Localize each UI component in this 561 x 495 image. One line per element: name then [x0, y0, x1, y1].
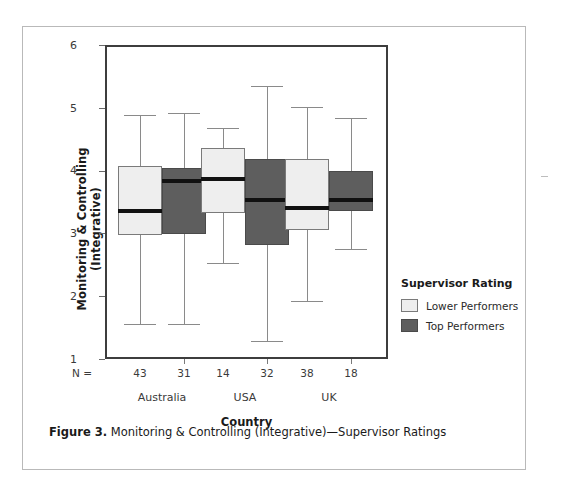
n-value-usa-top: 32 [245, 367, 289, 379]
whisker-upper-cap [335, 118, 367, 119]
y-tick-label-4: 4 [63, 165, 77, 176]
y-tick-mark-5 [99, 108, 105, 109]
n-value-uk-lower: 38 [285, 367, 329, 379]
whisker-upper-line [140, 115, 141, 166]
y-tick-mark-1 [99, 359, 105, 360]
x-category-uk: UK [285, 391, 373, 404]
y-tick-mark-3 [99, 233, 105, 234]
whisker-lower-line [140, 235, 141, 324]
legend-item-lower-performers[interactable]: Lower Performers [401, 299, 541, 312]
whisker-upper-line [351, 118, 352, 178]
whisker-lower-cap [335, 249, 367, 250]
whisker-upper-cap [251, 86, 283, 87]
legend-label-lower-performers: Lower Performers [426, 300, 518, 312]
y-axis-title: Monitoring & Controlling (Integrative) [75, 119, 103, 339]
median-line [118, 209, 162, 213]
x-category-australia: Australia [118, 391, 206, 404]
legend-item-top-performers[interactable]: Top Performers [401, 319, 541, 332]
figure-caption-text: Monitoring & Controlling (Integrative)—S… [107, 425, 446, 439]
median-line [162, 179, 206, 183]
whisker-lower-line [267, 245, 268, 341]
x-category-usa: USA [201, 391, 289, 404]
n-value-uk-top: 18 [329, 367, 373, 379]
y-tick-mark-6 [99, 45, 105, 46]
y-tick-mark-2 [99, 296, 105, 297]
median-line [201, 177, 245, 181]
legend-swatch-lower-performers [401, 299, 418, 312]
box-body [285, 159, 329, 230]
whisker-lower-cap [124, 324, 156, 325]
x-tick-australia [184, 359, 185, 364]
whisker-upper-cap [207, 128, 239, 129]
y-tick-label-5: 5 [63, 103, 77, 114]
whisker-upper-line [184, 113, 185, 168]
box-body [162, 168, 206, 234]
y-tick-label-2: 2 [63, 291, 77, 302]
whisker-lower-cap [291, 301, 323, 302]
box-body [118, 166, 162, 235]
y-tick-label-1: 1 [63, 354, 77, 365]
page-margin-tick [541, 176, 548, 177]
y-tick-label-6: 6 [63, 40, 77, 51]
median-line [245, 198, 289, 202]
box-body [329, 171, 373, 211]
y-tick-mark-4 [99, 171, 105, 172]
whisker-upper-cap [168, 113, 200, 114]
whisker-lower-line [184, 234, 185, 324]
whisker-lower-cap [207, 263, 239, 264]
median-line [329, 198, 373, 202]
whisker-lower-cap [251, 341, 283, 342]
n-prefix-label: N = [65, 367, 99, 379]
n-value-australia-top: 31 [162, 367, 206, 379]
whisker-upper-cap [124, 115, 156, 116]
figure-caption: Figure 3. Monitoring & Controlling (Inte… [49, 425, 446, 439]
n-value-australia-lower: 43 [118, 367, 162, 379]
whisker-lower-line [351, 211, 352, 249]
legend-title: Supervisor Rating [401, 277, 541, 290]
legend-label-top-performers: Top Performers [426, 320, 505, 332]
whisker-upper-line [267, 86, 268, 159]
whisker-lower-line [307, 230, 308, 301]
box-body [245, 159, 289, 245]
x-tick-usa [267, 359, 268, 364]
y-tick-label-3: 3 [63, 228, 77, 239]
legend-swatch-top-performers [401, 319, 418, 332]
x-tick-uk [351, 359, 352, 364]
whisker-upper-cap [291, 107, 323, 108]
n-value-usa-lower: 14 [201, 367, 245, 379]
median-line [285, 206, 329, 210]
figure-panel: Monitoring & Controlling (Integrative) 6… [22, 26, 526, 470]
whisker-lower-line [223, 213, 224, 263]
legend: Supervisor Rating Lower Performers Top P… [401, 277, 541, 339]
whisker-lower-cap [168, 324, 200, 325]
figure-number: Figure 3. [49, 425, 107, 439]
